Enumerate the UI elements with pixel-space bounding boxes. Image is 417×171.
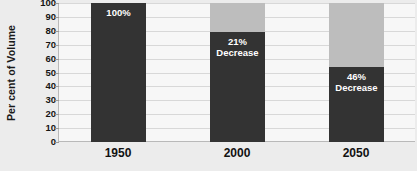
y-axis-tick-mark bbox=[55, 73, 59, 74]
x-axis-category-labels: 195020002050 bbox=[58, 146, 415, 166]
bar-group[interactable]: 100% bbox=[91, 3, 146, 142]
bar-value-label-line1: 46% bbox=[347, 71, 366, 82]
y-axis-tick-mark bbox=[55, 114, 59, 115]
plot-area: 100%21%Decrease46%Decrease bbox=[58, 3, 415, 142]
bar-value-label: 46%Decrease bbox=[329, 71, 384, 93]
bar-value-label: 100% bbox=[91, 7, 146, 18]
bar-chart: Per cent of Volume 010203040506070809010… bbox=[0, 0, 417, 171]
bar-ghost-segment bbox=[329, 3, 384, 67]
bar-value-label-line2: Decrease bbox=[210, 47, 265, 58]
y-axis-tick-mark bbox=[55, 59, 59, 60]
y-axis-tick-label: 30 bbox=[22, 95, 56, 105]
y-axis-tick-label: 90 bbox=[22, 12, 56, 22]
bar-value-label-line1: 21% bbox=[228, 36, 247, 47]
y-axis-tick-mark bbox=[55, 100, 59, 101]
bar-group[interactable]: 46%Decrease bbox=[329, 3, 384, 142]
bar-value-label-line2: Decrease bbox=[329, 82, 384, 93]
y-axis-tick-label: 10 bbox=[22, 123, 56, 133]
y-axis-tick-label: 0 bbox=[22, 137, 56, 147]
bar-fill-segment[interactable] bbox=[91, 3, 146, 142]
y-axis-tick-mark bbox=[55, 17, 59, 18]
y-axis-title-label: Per cent of Volume bbox=[5, 24, 17, 120]
y-axis-tick-mark bbox=[55, 86, 59, 87]
y-axis-title: Per cent of Volume bbox=[0, 0, 22, 145]
x-axis-category-label: 1950 bbox=[73, 146, 163, 160]
y-axis-tick-label: 50 bbox=[22, 68, 56, 78]
y-axis-tick-label: 60 bbox=[22, 54, 56, 64]
y-axis-tick-label: 80 bbox=[22, 26, 56, 36]
y-axis-tick-label: 100 bbox=[22, 0, 56, 8]
x-axis-category-label: 2050 bbox=[311, 146, 401, 160]
y-axis-tick-label: 70 bbox=[22, 40, 56, 50]
x-axis-category-label: 2000 bbox=[192, 146, 282, 160]
y-axis-tick-label: 40 bbox=[22, 81, 56, 91]
bar-value-label: 21%Decrease bbox=[210, 36, 265, 58]
y-axis-tick-mark bbox=[55, 31, 59, 32]
y-axis-tick-label: 20 bbox=[22, 109, 56, 119]
bar-group[interactable]: 21%Decrease bbox=[210, 3, 265, 142]
y-axis-tick-mark bbox=[55, 128, 59, 129]
y-axis-tick-labels: 0102030405060708090100 bbox=[22, 3, 56, 142]
bar-value-label-line1: 100% bbox=[106, 7, 130, 18]
y-axis-tick-mark bbox=[55, 45, 59, 46]
y-axis-tick-mark bbox=[55, 142, 59, 143]
bar-ghost-segment bbox=[210, 3, 265, 32]
y-axis-tick-mark bbox=[55, 3, 59, 4]
